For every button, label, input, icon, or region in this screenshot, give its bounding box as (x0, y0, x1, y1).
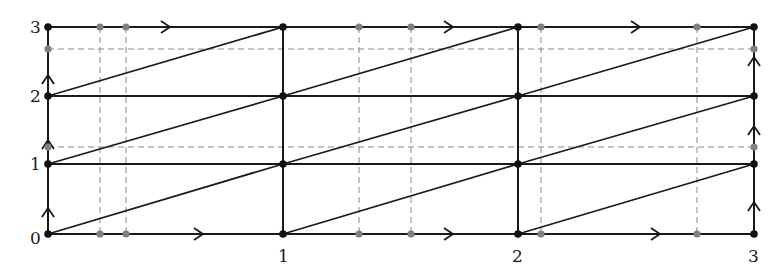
torus-grid-diagram: 3 2 1 0 1 2 3 (0, 0, 784, 275)
y-label-1: 1 (30, 154, 41, 174)
gray-point (355, 23, 362, 30)
gray-point (693, 23, 700, 30)
gray-point (44, 45, 51, 52)
diagonal-line (518, 27, 754, 96)
gray-point (537, 230, 544, 237)
vertex-point (514, 230, 522, 238)
diagonal-line (48, 96, 283, 164)
vertex-point (279, 23, 287, 31)
gray-point (750, 143, 757, 150)
gray-point (96, 23, 103, 30)
y-label-3: 3 (30, 17, 41, 37)
x-label-2: 2 (512, 246, 523, 266)
diagonal-line (283, 164, 518, 234)
vertex-point (44, 160, 52, 168)
vertex-point (514, 160, 522, 168)
vertex-point (279, 230, 287, 238)
vertex-point (514, 23, 522, 31)
gray-point (750, 45, 757, 52)
x-label-1: 1 (278, 246, 289, 266)
gray-point (407, 230, 414, 237)
diagonal-line (283, 96, 518, 164)
vertex-point (750, 23, 758, 31)
y-label-0: 0 (30, 228, 41, 248)
gray-point (355, 230, 362, 237)
gray-point (122, 23, 129, 30)
vertex-point (279, 160, 287, 168)
gray-point (122, 230, 129, 237)
y-label-2: 2 (30, 86, 41, 106)
diagonal-line (518, 164, 754, 234)
gray-point (44, 143, 51, 150)
gray-point (693, 230, 700, 237)
x-label-3: 3 (748, 246, 759, 266)
vertex-point (44, 92, 52, 100)
diagonal-line (48, 164, 283, 234)
vertex-point (750, 92, 758, 100)
vertex-point (44, 230, 52, 238)
vertex-point (514, 92, 522, 100)
vertex-point (279, 92, 287, 100)
diagonal-line (48, 27, 283, 96)
diagonal-line (518, 96, 754, 164)
diagonal-line (283, 27, 518, 96)
vertex-point (750, 230, 758, 238)
gray-point (537, 23, 544, 30)
vertex-point (750, 160, 758, 168)
diagonal-lines (48, 27, 754, 234)
gray-point (96, 230, 103, 237)
axis-labels: 3 2 1 0 1 2 3 (30, 17, 759, 266)
gray-point (407, 23, 414, 30)
vertex-point (44, 23, 52, 31)
